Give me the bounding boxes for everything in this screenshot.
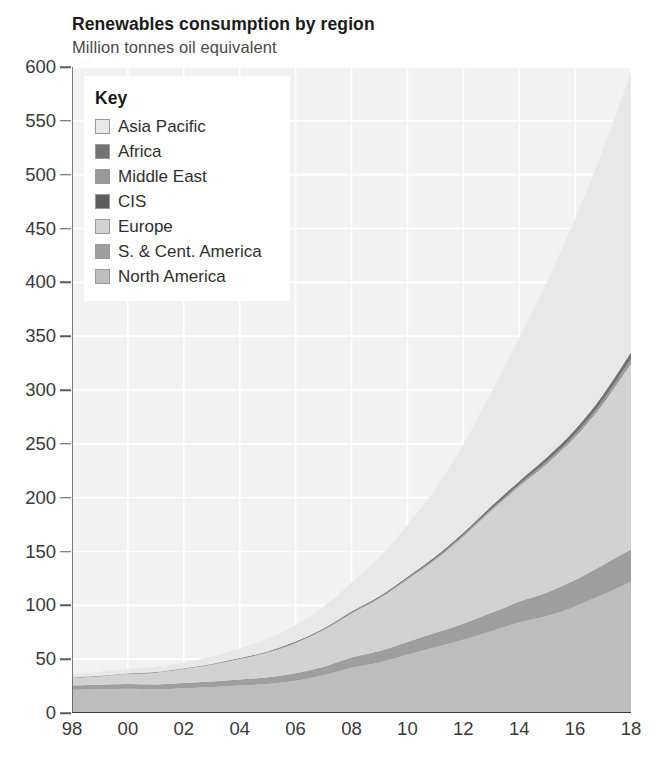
- x-axis-tick-label: 14: [509, 718, 530, 740]
- legend-swatch-icon: [95, 219, 110, 234]
- legend-item: Asia Pacific: [95, 115, 280, 138]
- legend-item: Europe: [95, 215, 280, 238]
- x-axis-tick-label: 16: [565, 718, 586, 740]
- y-axis-tick-label: 400: [0, 271, 56, 293]
- legend-swatch-icon: [95, 119, 110, 134]
- legend-swatch-icon: [95, 169, 110, 184]
- legend-item-label: Asia Pacific: [118, 118, 206, 135]
- legend-item: Middle East: [95, 165, 280, 188]
- legend-swatch-icon: [95, 244, 110, 259]
- legend-item-label: Middle East: [118, 168, 207, 185]
- legend-items: Asia PacificAfricaMiddle EastCISEuropeS.…: [94, 115, 280, 288]
- chart-subtitle: Million tonnes oil equivalent: [72, 38, 277, 57]
- chart-page: Renewables consumption by region Million…: [0, 0, 662, 762]
- y-axis-tick-mark: [60, 389, 71, 391]
- legend-item-label: North America: [118, 268, 226, 285]
- legend-item: CIS: [95, 190, 280, 213]
- legend-item: Africa: [95, 140, 280, 163]
- y-axis-tick-mark: [60, 551, 71, 553]
- y-axis-tick-mark: [60, 282, 71, 284]
- legend-item-label: Africa: [118, 143, 161, 160]
- x-axis-tick-label: 04: [229, 718, 250, 740]
- x-axis-tick-label: 12: [453, 718, 474, 740]
- legend-swatch-icon: [95, 144, 110, 159]
- x-axis-tick-label: 18: [621, 718, 642, 740]
- x-axis-tick-label: 02: [174, 718, 195, 740]
- y-axis-tick-label: 450: [0, 218, 56, 240]
- y-axis-tick-label: 100: [0, 594, 56, 616]
- y-axis-tick-label: 600: [0, 56, 56, 78]
- y-axis-tick-label: 0: [0, 702, 56, 724]
- legend-item-label: CIS: [118, 193, 146, 210]
- y-axis-tick-label: 500: [0, 164, 56, 186]
- y-axis-tick-mark: [60, 658, 71, 660]
- y-axis-tick-mark: [60, 443, 71, 445]
- y-axis-tick-mark: [60, 605, 71, 607]
- x-axis-tick-label: 98: [62, 718, 83, 740]
- legend-swatch-icon: [95, 194, 110, 209]
- y-axis-tick-mark: [60, 174, 71, 176]
- legend-item: North America: [95, 265, 280, 288]
- y-axis-tick-label: 300: [0, 379, 56, 401]
- y-axis-tick-mark: [60, 228, 71, 230]
- x-axis-tick-label: 08: [341, 718, 362, 740]
- legend-item-label: Europe: [118, 218, 173, 235]
- y-axis-tick-mark: [60, 712, 71, 714]
- y-axis-tick-label: 350: [0, 325, 56, 347]
- y-axis-tick-mark: [60, 497, 71, 499]
- y-axis-tick-label: 200: [0, 487, 56, 509]
- y-axis-tick-label: 550: [0, 110, 56, 132]
- x-axis-tick-label: 00: [118, 718, 139, 740]
- y-axis-tick-label: 50: [0, 648, 56, 670]
- chart-title: Renewables consumption by region: [72, 14, 375, 35]
- x-axis-tick-label: 06: [285, 718, 306, 740]
- legend-item: S. & Cent. America: [95, 240, 280, 263]
- legend: Key Asia PacificAfricaMiddle EastCISEuro…: [84, 76, 290, 301]
- y-axis-tick-label: 150: [0, 541, 56, 563]
- y-axis-tick-mark: [60, 120, 71, 122]
- x-axis-tick-label: 10: [397, 718, 418, 740]
- legend-item-label: S. & Cent. America: [118, 243, 262, 260]
- legend-title: Key: [95, 88, 280, 109]
- y-axis-tick-label: 250: [0, 433, 56, 455]
- y-axis-tick-mark: [60, 66, 71, 68]
- y-axis-tick-mark: [60, 335, 71, 337]
- legend-swatch-icon: [95, 269, 110, 284]
